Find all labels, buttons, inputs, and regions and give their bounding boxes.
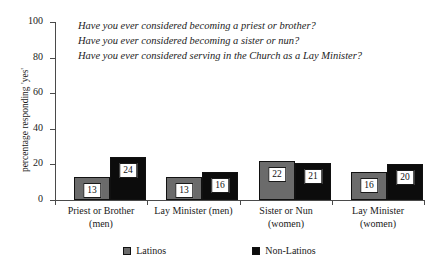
- y-tick-label-100: 100: [28, 15, 43, 26]
- legend-swatch-non-latinos: [252, 247, 260, 255]
- bar-latinos-priest-or-brother-men: 13: [74, 177, 110, 200]
- bar-latinos-lay-minister-women: 16: [351, 172, 387, 201]
- bar-value-label: 16: [211, 178, 229, 193]
- x-category-label-sister-or-nun-women: Sister or Nun (women): [240, 204, 332, 230]
- bar-group-sister-or-nun-women: 22 21: [240, 22, 332, 200]
- bar-non-latinos-lay-minister-men: 16: [202, 172, 238, 201]
- x-category-label-priest-or-brother-men: Priest or Brother (men): [55, 204, 147, 230]
- y-tick-label-40: 40: [33, 122, 43, 133]
- bar-value-label: 13: [175, 183, 193, 198]
- x-category-line-2: (women): [240, 217, 332, 230]
- y-tick-label-80: 80: [33, 51, 43, 62]
- x-category-line-1: Lay Minister (men): [147, 204, 240, 217]
- bar-group-lay-minister-men: 13 16: [147, 22, 240, 200]
- legend-item-latinos: Latinos: [123, 245, 166, 256]
- bar-value-label: 16: [360, 178, 378, 193]
- x-category-line-1: Lay Minister: [332, 204, 424, 217]
- x-category-line-2: (women): [332, 217, 424, 230]
- bar-value-label: 21: [304, 169, 322, 184]
- legend-label-latinos: Latinos: [136, 245, 166, 256]
- x-category-line-1: Sister or Nun: [240, 204, 332, 217]
- y-tick-label-20: 20: [33, 157, 43, 168]
- bar-non-latinos-lay-minister-women: 20: [387, 164, 423, 200]
- bar-value-label: 13: [83, 183, 101, 198]
- bar-value-label: 22: [268, 167, 286, 182]
- y-tick-label-0: 0: [38, 193, 43, 204]
- bar-non-latinos-sister-or-nun-women: 21: [295, 163, 331, 200]
- x-category-line-2: (men): [55, 217, 147, 230]
- legend-swatch-latinos: [123, 247, 131, 255]
- bar-latinos-lay-minister-men: 13: [166, 177, 202, 200]
- x-category-line-1: Priest or Brother: [55, 204, 147, 217]
- bar-value-label: 24: [119, 163, 137, 178]
- y-tick-label-60: 60: [33, 86, 43, 97]
- legend: Latinos Non-Latinos: [0, 245, 439, 256]
- bar-group-priest-or-brother-men: 13 24: [55, 22, 147, 200]
- bar-value-label: 20: [396, 170, 414, 185]
- bar-latinos-sister-or-nun-women: 22: [259, 161, 295, 200]
- bar-group-lay-minister-women: 16 20: [332, 22, 424, 200]
- chart-figure: percentage responding 'yes' Have you eve…: [0, 0, 439, 271]
- x-category-label-lay-minister-men: Lay Minister (men): [147, 204, 240, 217]
- x-category-label-lay-minister-women: Lay Minister (women): [332, 204, 424, 230]
- plot-area: 100 80 60 40 20 0 13: [55, 22, 425, 200]
- legend-label-non-latinos: Non-Latinos: [265, 245, 316, 256]
- legend-item-non-latinos: Non-Latinos: [252, 245, 316, 256]
- x-tick-4: [424, 200, 425, 205]
- bar-non-latinos-priest-or-brother-men: 24: [110, 157, 146, 200]
